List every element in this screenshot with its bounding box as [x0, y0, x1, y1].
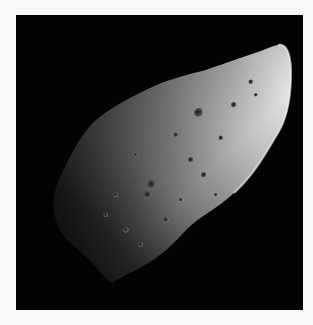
- asteroid-photo: Grayscale photograph of an elongated, he…: [16, 15, 303, 310]
- asteroid-illustration: [16, 15, 303, 310]
